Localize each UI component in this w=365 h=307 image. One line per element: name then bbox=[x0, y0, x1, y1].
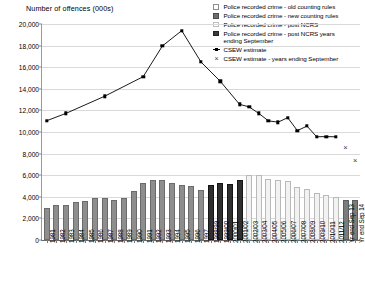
x-axis-tick-label: 2004/05 bbox=[271, 221, 278, 243]
x-axis-tick-label: 1984 bbox=[78, 229, 85, 243]
x-axis-tick-mark bbox=[66, 240, 67, 243]
legend-swatch-icon bbox=[213, 12, 220, 19]
csew-data-point bbox=[238, 103, 241, 106]
x-axis-tick-label: 1998/99 bbox=[213, 221, 220, 243]
csew-data-point bbox=[45, 119, 48, 122]
csew-data-point bbox=[141, 75, 144, 78]
x-axis-tick-mark bbox=[76, 240, 77, 243]
x-axis-tick-label: 1983 bbox=[68, 229, 75, 243]
x-axis-tick-label: 2006/07 bbox=[290, 221, 297, 243]
x-axis-tick-mark bbox=[143, 240, 144, 243]
csew-data-point bbox=[161, 44, 164, 47]
x-axis-tick-mark bbox=[326, 240, 327, 243]
x-axis-tick-mark bbox=[56, 240, 57, 243]
csew-data-point bbox=[64, 112, 67, 115]
x-axis-tick-label: 2010/11 bbox=[329, 221, 336, 243]
x-axis-tick-label: 2000/01 bbox=[232, 221, 239, 243]
csew-data-point bbox=[267, 119, 270, 122]
x-axis-tick-mark bbox=[297, 240, 298, 243]
chart-axis-title: Number of offences (000s) bbox=[26, 4, 113, 13]
x-axis-tick-label: 2001/02 bbox=[242, 221, 249, 243]
legend-item-label: Police recorded crime - new counting rul… bbox=[224, 12, 339, 19]
csew-data-point bbox=[219, 80, 222, 83]
legend-item-label: Police recorded crime - old counting rul… bbox=[224, 3, 336, 10]
x-axis-tick-mark bbox=[134, 240, 135, 243]
x-axis-tick-mark bbox=[114, 240, 115, 243]
x-axis-tick-label: 2003/04 bbox=[261, 221, 268, 243]
x-axis-tick-mark bbox=[249, 240, 250, 243]
x-axis-tick-mark bbox=[182, 240, 183, 243]
x-axis-tick-label: 1987 bbox=[107, 229, 114, 243]
x-axis-tick-mark bbox=[259, 240, 260, 243]
x-axis-tick-label: 2007/08 bbox=[300, 221, 307, 243]
x-axis-tick-label: Yr end Sep 14 bbox=[358, 204, 365, 243]
x-axis-tick-label: 1997 bbox=[203, 229, 210, 243]
csew-data-point bbox=[315, 135, 318, 138]
csew-data-point bbox=[296, 129, 299, 132]
x-axis-tick-mark bbox=[288, 240, 289, 243]
csew-data-point bbox=[334, 135, 337, 138]
csew-data-point bbox=[199, 60, 202, 63]
x-axis-tick-label: 1986 bbox=[97, 229, 104, 243]
csew-sep-data-point: × bbox=[343, 144, 347, 152]
x-axis-tick-mark bbox=[172, 240, 173, 243]
x-axis-tick-mark bbox=[191, 240, 192, 243]
x-axis-tick-mark bbox=[278, 240, 279, 243]
csew-data-point bbox=[305, 124, 308, 127]
x-axis-tick-label: 1995 bbox=[184, 229, 191, 243]
plot-area: 02,0004,0006,0008,00010,00012,00014,0001… bbox=[42, 24, 360, 240]
x-axis-tick-label: 2002/03 bbox=[252, 221, 259, 243]
x-axis-tick-mark bbox=[124, 240, 125, 243]
x-axis-tick-label: 2009/10 bbox=[319, 221, 326, 243]
x-axis-tick-label: 1996 bbox=[194, 229, 201, 243]
legend-item[interactable]: Police recorded crime - old counting rul… bbox=[213, 3, 365, 11]
x-axis-tick-label: 1994 bbox=[174, 229, 181, 243]
x-axis-tick-mark bbox=[105, 240, 106, 243]
x-axis-tick-label: 1982 bbox=[59, 229, 66, 243]
x-axis-tick-label: 2005/06 bbox=[280, 221, 287, 243]
csew-sep-data-point: × bbox=[353, 157, 357, 165]
legend-item[interactable]: Police recorded crime - new counting rul… bbox=[213, 12, 365, 20]
csew-data-point bbox=[247, 105, 250, 108]
x-axis-tick-mark bbox=[211, 240, 212, 243]
x-axis-tick-label: 1989 bbox=[126, 229, 133, 243]
x-axis-tick-label: 1990 bbox=[136, 229, 143, 243]
x-axis-tick-mark bbox=[346, 240, 347, 243]
offences-chart: Number of offences (000s) Police recorde… bbox=[0, 0, 365, 307]
x-axis-tick-mark bbox=[162, 240, 163, 243]
csew-data-point bbox=[257, 112, 260, 115]
x-axis-tick-mark bbox=[153, 240, 154, 243]
x-axis-tick-mark bbox=[85, 240, 86, 243]
x-axis-tick-label: 1988 bbox=[117, 229, 124, 243]
csew-data-point bbox=[180, 29, 183, 32]
x-axis-tick-label: 1991 bbox=[146, 229, 153, 243]
x-axis-tick-mark bbox=[317, 240, 318, 243]
x-axis-tick-mark bbox=[95, 240, 96, 243]
x-axis-tick-label: Yr end Sep 13 bbox=[348, 204, 355, 243]
x-axis-tick-mark bbox=[201, 240, 202, 243]
x-axis-tick-label: 2008/09 bbox=[309, 221, 316, 243]
x-axis-tick-mark bbox=[336, 240, 337, 243]
csew-data-point bbox=[286, 116, 289, 119]
x-axis-tick-label: 2011/12 bbox=[338, 221, 345, 243]
csew-data-point bbox=[103, 95, 106, 98]
x-axis-tick-mark bbox=[230, 240, 231, 243]
x-axis-tick-mark bbox=[220, 240, 221, 243]
x-axis-tick-mark bbox=[355, 240, 356, 243]
csew-line bbox=[42, 24, 360, 240]
x-axis-tick-label: 1993 bbox=[165, 229, 172, 243]
x-axis-tick-mark bbox=[307, 240, 308, 243]
x-axis-tick-label: 1985 bbox=[88, 229, 95, 243]
x-axis-tick-mark bbox=[47, 240, 48, 243]
x-axis-tick-label: 1992 bbox=[155, 229, 162, 243]
x-axis-tick-mark bbox=[240, 240, 241, 243]
x-axis-tick-label: 1999/00 bbox=[223, 221, 230, 243]
x-axis-tick-label: 1981 bbox=[49, 229, 56, 243]
csew-data-point bbox=[325, 135, 328, 138]
csew-data-point bbox=[276, 120, 279, 123]
x-axis-tick-mark bbox=[268, 240, 269, 243]
legend-swatch-icon bbox=[213, 4, 220, 11]
